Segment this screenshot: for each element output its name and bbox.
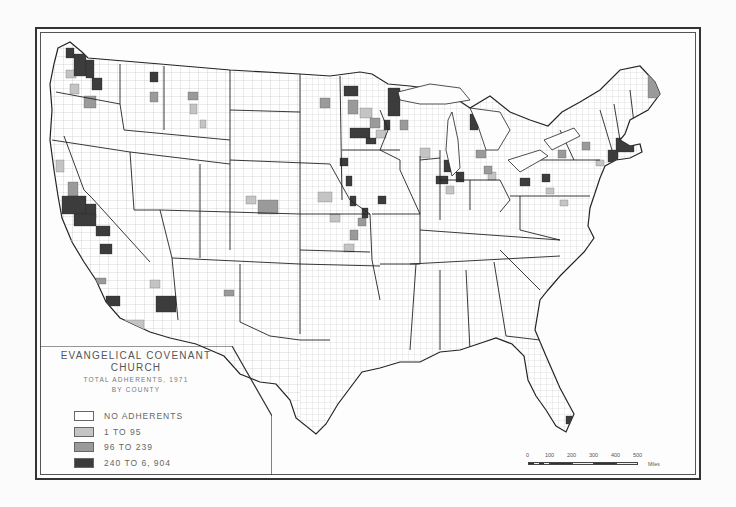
scale-unit: Miles [648,461,660,467]
legend-item-high: 240 TO 6, 904 [74,457,171,469]
legend-label: NO ADHERENTS [104,411,183,421]
scale-tick: 200 [567,452,576,458]
legend-swatch [74,442,94,452]
scale-tick: 400 [611,452,620,458]
legend-item-mid: 96 TO 239 [74,441,153,453]
legend-title-line2: CHURCH [40,362,232,373]
legend-swatch [74,458,94,468]
scale-tick: 500 [633,452,642,458]
legend-label: 96 TO 239 [104,442,153,452]
scale-tick: 300 [589,452,598,458]
scale-segment [550,462,572,465]
scale-segment [616,462,638,465]
legend-item-none: NO ADHERENTS [74,410,183,422]
scale-tick: 100 [545,452,554,458]
legend-swatch [74,427,94,437]
scale-segment [594,462,616,465]
scale-tick: 0 [526,452,529,458]
legend: EVANGELICAL COVENANT CHURCH TOTAL ADHERE… [40,346,272,475]
legend-label: 1 TO 95 [104,427,141,437]
scale-segment [528,462,550,465]
legend-subtitle-line2: BY COUNTY [40,386,232,393]
legend-title: EVANGELICAL COVENANT [40,350,232,361]
legend-label: 240 TO 6, 904 [104,458,171,468]
scale-bar: 0 100 200 300 400 500 Miles [526,452,686,472]
legend-swatch [74,411,94,421]
legend-item-low: 1 TO 95 [74,426,141,438]
scale-segment [572,462,594,465]
legend-subtitle: TOTAL ADHERENTS, 1971 [40,376,232,383]
